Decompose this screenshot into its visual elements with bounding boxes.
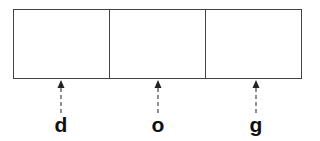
arrowhead-icon (253, 80, 260, 88)
pointer-label-g: g (241, 113, 271, 137)
arrowhead-icon (58, 80, 65, 88)
pointer-label-d: d (46, 113, 76, 137)
pointer-label-o: o (143, 113, 173, 137)
arrowhead-icon (155, 80, 162, 88)
